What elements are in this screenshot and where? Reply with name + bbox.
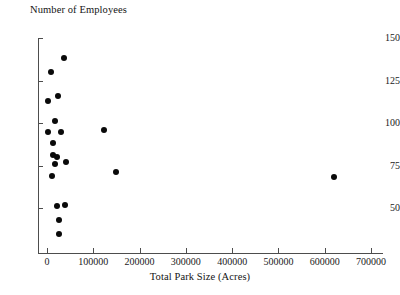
x-tick-label: 300000 — [171, 256, 201, 267]
x-tick-label: 400000 — [217, 256, 247, 267]
data-point — [45, 129, 51, 135]
data-point — [55, 93, 61, 99]
data-point — [101, 127, 107, 133]
data-point — [48, 69, 54, 75]
data-point — [52, 161, 58, 167]
x-tick-label: 0 — [45, 256, 50, 267]
y-axis-title: Number of Employees — [30, 4, 127, 15]
data-point — [62, 202, 68, 208]
x-axis-line — [38, 253, 383, 254]
x-tick-label: 500000 — [263, 256, 293, 267]
data-point — [58, 129, 64, 135]
data-point — [45, 98, 51, 104]
data-point — [331, 174, 337, 180]
x-tick-label: 200000 — [125, 256, 155, 267]
data-point — [49, 173, 55, 179]
data-point — [61, 55, 67, 61]
plot-area — [38, 38, 382, 253]
data-point — [63, 159, 69, 165]
data-point — [113, 169, 119, 175]
x-axis-title: Total Park Size (Acres) — [0, 271, 400, 282]
data-point — [56, 231, 62, 237]
data-point — [54, 203, 60, 209]
x-tick-label: 100000 — [78, 256, 108, 267]
data-point — [52, 118, 58, 124]
data-point — [54, 154, 60, 160]
x-tick-label: 600000 — [310, 256, 340, 267]
x-tick-label: 700000 — [356, 256, 386, 267]
scatter-plot-figure: Number of Employees 5075100125150 010000… — [0, 0, 400, 295]
data-point — [56, 217, 62, 223]
data-point — [50, 140, 56, 146]
